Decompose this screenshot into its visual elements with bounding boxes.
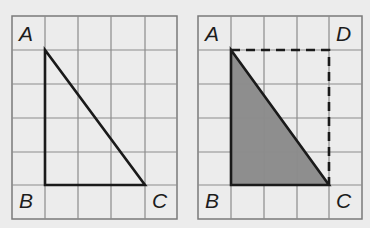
vertex-label-c: C <box>152 189 168 212</box>
vertex-label-a: A <box>17 22 33 45</box>
vertex-label-a-right: A <box>203 22 219 45</box>
vertex-label-b-right: B <box>205 189 219 212</box>
vertex-label-c-right: C <box>336 189 352 212</box>
vertex-label-d: D <box>336 22 351 45</box>
diagram-canvas: A B C A D B C <box>0 0 370 228</box>
vertex-label-b: B <box>19 189 33 212</box>
